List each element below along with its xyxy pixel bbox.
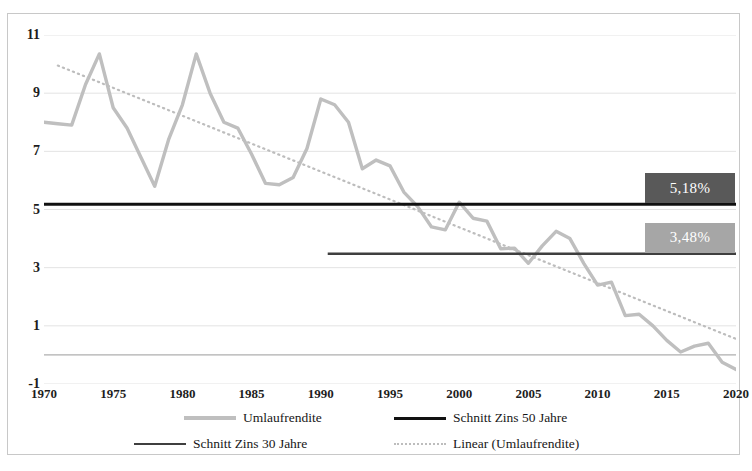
legend-label-schnitt-zins-50-jahre: Schnitt Zins 50 Jahre [453, 410, 567, 426]
x-axis-tick-label: 1995 [377, 386, 403, 402]
x-axis-tick-label: 2010 [585, 386, 611, 402]
legend-label-umlaufrendite: Umlaufrendite [243, 410, 322, 426]
legend-swatch-linear-trendline-icon [394, 438, 446, 450]
gridlines [44, 35, 736, 384]
legend-swatch-schnitt-zins-30-icon [134, 438, 186, 450]
plot-svg [44, 35, 736, 384]
legend-item-schnitt-zins-30-jahre[interactable]: Schnitt Zins 30 Jahre [134, 436, 307, 452]
legend-label-linear-umlaufrendite: Linear (Umlaufrendite) [453, 436, 579, 452]
y-axis-tick-label: 1 [14, 319, 40, 333]
legend-item-schnitt-zins-50-jahre[interactable]: Schnitt Zins 50 Jahre [394, 410, 567, 426]
x-axis-tick-label: 1975 [100, 386, 126, 402]
x-axis-tick-label: 2000 [446, 386, 472, 402]
x-axis-tick-label: 2005 [515, 386, 541, 402]
chart-page: 1197531-1 197019751980198519901995200020… [0, 0, 752, 471]
legend-swatch-schnitt-zins-50-icon [394, 412, 446, 424]
trendline-linear-umlaufrendite [58, 66, 736, 339]
y-axis: 1197531-1 [12, 35, 40, 384]
x-axis-tick-label: 1985 [239, 386, 265, 402]
plot-area [44, 35, 736, 384]
x-axis-tick-label: 1970 [31, 386, 57, 402]
x-axis-tick-label: 2020 [723, 386, 749, 402]
chart-legend: Umlaufrendite Schnitt Zins 50 Jahre Schn… [44, 410, 744, 462]
x-axis-tick-label: 1980 [169, 386, 195, 402]
y-axis-tick-label: 7 [14, 144, 40, 158]
legend-item-umlaufrendite[interactable]: Umlaufrendite [184, 410, 322, 426]
callout-schnitt-zins-30: 3,48% [645, 223, 735, 253]
y-axis-tick-label: 5 [14, 203, 40, 217]
y-axis-tick-label: 3 [14, 261, 40, 275]
chart-frame: 1197531-1 197019751980198519901995200020… [7, 13, 740, 455]
x-axis-tick-label: 2015 [654, 386, 680, 402]
legend-swatch-umlaufrendite-icon [184, 412, 236, 424]
legend-label-schnitt-zins-30-jahre: Schnitt Zins 30 Jahre [193, 436, 307, 452]
callout-schnitt-zins-50: 5,18% [645, 173, 735, 203]
y-axis-tick-label: 9 [14, 86, 40, 100]
legend-item-linear-umlaufrendite[interactable]: Linear (Umlaufrendite) [394, 436, 579, 452]
x-axis: 1970197519801985199019952000200520102015… [44, 386, 744, 406]
y-axis-tick-label: 11 [14, 28, 40, 42]
x-axis-tick-label: 1990 [308, 386, 334, 402]
